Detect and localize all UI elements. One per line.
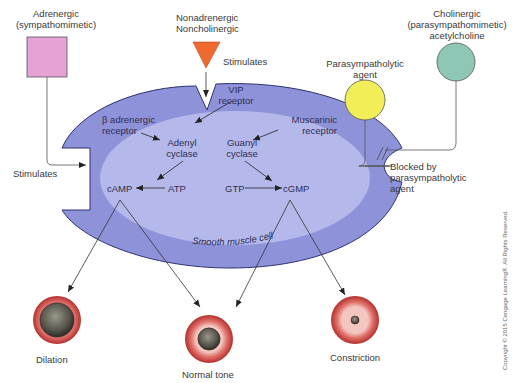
nanc-agent-label: Nonadrenergic Noncholinergic — [176, 12, 239, 34]
beta-receptor-label: β adrenergic receptor — [102, 114, 155, 136]
parasympatholytic-line2: agent — [322, 69, 408, 80]
blocked-line3: agent — [390, 183, 467, 194]
vip-line1: VIP — [213, 84, 259, 95]
beta-line1: β adrenergic — [102, 114, 155, 125]
beta-line2: receptor — [102, 125, 155, 136]
muscarinic-line2: receptor — [281, 125, 337, 136]
cholinergic-line3: acetylcholine — [402, 30, 512, 41]
nanc-line2: Noncholinergic — [176, 23, 239, 34]
adenyl-line2: cyclase — [160, 148, 204, 159]
guanyl-line1: Guanyl — [220, 137, 264, 148]
cholinergic-agent-label: Cholinergic (parasympathomimetic) acetyl… — [402, 8, 512, 41]
parasympatholytic-agent-circle — [345, 80, 385, 120]
adenyl-line1: Adenyl — [160, 137, 204, 148]
blocked-line2: parasympatholytic — [390, 172, 467, 183]
copyright-notice: Copyright © 2015 Cengage Learning®. All … — [502, 210, 508, 370]
vessel-normal-tone — [185, 315, 233, 363]
guanyl-line2: cyclase — [220, 148, 264, 159]
blocked-line1: Blocked by — [390, 161, 467, 172]
dilation-label: Dilation — [36, 354, 68, 365]
constriction-label: Constriction — [330, 352, 380, 363]
cholinergic-agent-circle — [437, 43, 475, 81]
adenyl-cyclase-label: Adenyl cyclase — [160, 137, 204, 159]
parasympatholytic-agent-label: Parasympatholytic agent — [322, 58, 408, 80]
atp-label: ATP — [168, 183, 186, 194]
adrenergic-line1: Adrenergic — [8, 8, 104, 19]
nanc-line1: Nonadrenergic — [176, 12, 239, 23]
muscarinic-line1: Muscarinic — [281, 114, 337, 125]
vessel-dilation — [33, 296, 81, 344]
stimulates-left-label: Stimulates — [13, 168, 57, 179]
adrenergic-agent-square — [27, 37, 67, 77]
stimulates-top-label: Stimulates — [223, 56, 267, 67]
normal-tone-label: Normal tone — [182, 369, 234, 380]
guanyl-cyclase-label: Guanyl cyclase — [220, 137, 264, 159]
muscarinic-receptor-label: Muscarinic receptor — [281, 114, 337, 136]
vessel-constriction — [331, 296, 379, 344]
cholinergic-line2: (parasympathomimetic) — [402, 19, 512, 30]
adrenergic-agent-label: Adrenergic (sympathomimetic) — [8, 8, 104, 30]
vip-line2: receptor — [213, 95, 259, 106]
blocked-label: Blocked by parasympatholytic agent — [390, 161, 467, 194]
adrenergic-line2: (sympathomimetic) — [8, 19, 104, 30]
gtp-label: GTP — [225, 183, 245, 194]
camp-label: cAMP — [107, 183, 132, 194]
cholinergic-line1: Cholinergic — [402, 8, 512, 19]
cgmp-label: cGMP — [283, 183, 309, 194]
nanc-agent-triangle — [193, 42, 220, 68]
parasympatholytic-line1: Parasympatholytic — [322, 58, 408, 69]
vip-receptor-label: VIP receptor — [213, 84, 259, 106]
